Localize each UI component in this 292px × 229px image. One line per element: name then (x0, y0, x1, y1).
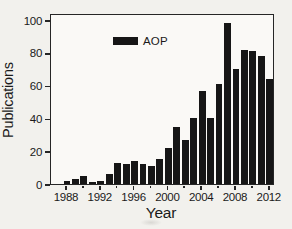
x-tick-2004 (200, 186, 202, 191)
y-tick-40 (45, 119, 50, 121)
bar-2004 (199, 91, 206, 184)
plot-area: AOP (50, 14, 274, 185)
bar-1988 (64, 181, 71, 184)
y-tick-label-40: 40 (12, 114, 42, 125)
x-tick-label-2000: 2000 (150, 191, 184, 203)
x-minor-tick-2010 (251, 186, 253, 189)
bar-2012 (266, 79, 273, 184)
bar-2001 (173, 127, 180, 184)
y-tick-100 (45, 20, 50, 22)
x-minor-tick-2002 (183, 186, 185, 189)
bar-2009 (241, 50, 248, 184)
bar-1998 (148, 166, 155, 184)
x-minor-tick-1994 (116, 186, 118, 189)
y-tick-80 (45, 53, 50, 55)
bar-1997 (140, 164, 147, 184)
legend: AOP (113, 36, 168, 46)
y-tick-20 (45, 151, 50, 153)
x-minor-tick-2006 (217, 186, 219, 189)
y-tick-0 (45, 184, 50, 186)
x-tick-1988 (65, 186, 67, 191)
x-tick-label-1988: 1988 (49, 191, 83, 203)
x-tick-2000 (167, 186, 169, 191)
x-tick-label-2004: 2004 (184, 191, 218, 203)
bar-1990 (80, 176, 87, 184)
x-tick-label-1992: 1992 (83, 191, 117, 203)
x-tick-label-2012: 2012 (252, 191, 286, 203)
legend-swatch-icon (113, 37, 138, 46)
legend-series-label: AOP (143, 36, 168, 46)
y-tick-60 (45, 86, 50, 88)
bar-1996 (131, 161, 138, 184)
bar-2006 (216, 84, 223, 184)
bar-2008 (233, 69, 240, 184)
y-tick-label-80: 80 (12, 48, 42, 59)
x-tick-2008 (234, 186, 236, 191)
y-tick-label-0: 0 (12, 180, 42, 191)
y-tick-label-60: 60 (12, 81, 42, 92)
x-minor-tick-1998 (150, 186, 152, 189)
x-tick-1996 (133, 186, 135, 191)
y-tick-label-20: 20 (12, 147, 42, 158)
bar-2000 (165, 148, 172, 184)
bar-2003 (190, 118, 197, 184)
x-tick-label-2008: 2008 (218, 191, 252, 203)
x-tick-2012 (268, 186, 270, 191)
bar-1995 (123, 164, 130, 184)
bar-2002 (182, 140, 189, 184)
bar-1993 (106, 174, 113, 184)
bar-2010 (249, 51, 256, 184)
bar-1999 (156, 159, 163, 184)
x-minor-tick-1990 (82, 186, 84, 189)
bar-1994 (114, 163, 121, 184)
bar-1991 (89, 182, 96, 184)
y-tick-label-100: 100 (12, 16, 42, 27)
x-tick-1992 (99, 186, 101, 191)
bar-2005 (207, 118, 214, 184)
bar-chart-figure: Publications AOP 020406080100 1988199219… (0, 0, 292, 229)
bar-2011 (258, 56, 265, 184)
bar-1992 (97, 181, 104, 184)
bar-1989 (72, 179, 79, 184)
x-tick-label-1996: 1996 (117, 191, 151, 203)
x-axis-label: Year (96, 204, 226, 222)
bar-2007 (224, 23, 231, 184)
